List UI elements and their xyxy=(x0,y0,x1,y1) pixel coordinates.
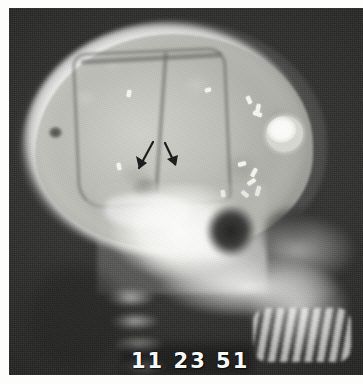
petrous-ridge xyxy=(105,194,191,228)
frontal-lucency xyxy=(48,126,63,139)
posterior-neck-soft-tissue xyxy=(21,258,131,375)
round-radiopaque-lesion xyxy=(266,116,303,152)
arrow-right xyxy=(159,141,185,171)
date-stamp: 11 23 51 xyxy=(131,349,249,373)
arrow-left xyxy=(130,140,160,174)
xray-plate: 11 23 51 xyxy=(9,8,363,375)
radiograph-figure: 11 23 51 xyxy=(0,0,363,384)
